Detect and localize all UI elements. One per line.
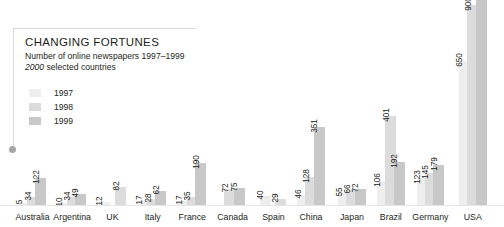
bar-group-argentina: 103449Argentina — [58, 0, 86, 227]
bar-group-bars: 6509001 — [459, 0, 487, 205]
bar-group-bars: 556672 — [338, 0, 366, 205]
category-label-china: China — [299, 212, 322, 222]
bar-australia-1999[interactable]: 122 — [35, 178, 46, 205]
bar-group-france: 1735190France — [178, 0, 206, 227]
bar-group-bars: 1735190 — [178, 0, 206, 205]
bar-value-label: 190 — [192, 155, 201, 169]
bar-uk-1999[interactable]: 82 — [115, 187, 126, 205]
bar-canada-1999[interactable]: 75 — [234, 188, 245, 205]
category-label-spain: Spain — [262, 212, 285, 222]
bar-value-label: 650 — [455, 53, 464, 67]
bar-value-label: 49 — [71, 189, 80, 198]
bar-value-label: 72 — [221, 183, 230, 192]
bar-group-bars: 7275 — [219, 0, 247, 205]
category-label-usa: USA — [464, 212, 482, 222]
bar-value-label: 62 — [152, 186, 161, 195]
bar-value-label: 5 — [15, 200, 24, 205]
bar-value-label: 192 — [390, 155, 399, 169]
category-axis-baseline — [0, 205, 504, 206]
bar-argentina-1999[interactable]: 49 — [75, 194, 86, 205]
bar-usa-1999[interactable]: 1 — [476, 0, 487, 205]
category-label-australia: Australia — [15, 212, 49, 222]
bar-china-1999[interactable]: 351 — [314, 127, 325, 205]
bar-value-label: 106 — [373, 174, 382, 188]
bar-italy-1999[interactable]: 62 — [155, 191, 166, 205]
bar-value-label: 29 — [271, 193, 280, 202]
bar-value-label: 28 — [144, 193, 153, 202]
bar-group-china: 46128351China — [297, 0, 325, 227]
bar-group-bars: 123145179 — [417, 0, 445, 205]
bar-group-australia: 534122Australia — [19, 0, 47, 227]
bar-value-label: 179 — [430, 157, 439, 171]
bar-spain-1997[interactable]: 40 — [260, 196, 271, 205]
bar-value-label: 145 — [421, 165, 430, 179]
bar-value-label: 35 — [183, 192, 192, 201]
bar-germany-1999[interactable]: 179 — [433, 165, 444, 205]
category-label-argentina: Argentina — [53, 212, 91, 222]
bar-group-canada: 7275Canada — [219, 0, 247, 227]
bar-group-bars: 103449 — [58, 0, 86, 205]
bar-value-label: 128 — [302, 169, 311, 183]
bar-japan-1999[interactable]: 72 — [355, 189, 366, 205]
bar-group-brazil: 106401192Brazil — [377, 0, 405, 227]
bar-value-label: 900 — [464, 0, 473, 11]
bar-group-bars: 106401192 — [377, 0, 405, 205]
category-label-japan: Japan — [340, 212, 364, 222]
bar-group-bars: 534122 — [19, 0, 47, 205]
bar-value-label: 72 — [351, 183, 360, 192]
category-label-canada: Canada — [217, 212, 248, 222]
category-label-germany: Germany — [412, 212, 448, 222]
bar-value-label: 401 — [382, 108, 391, 122]
plot-area: 534122Australia103449Argentina1282UK1728… — [0, 0, 504, 227]
bar-group-uk: 1282UK — [99, 0, 127, 227]
bar-group-germany: 123145179Germany — [417, 0, 445, 227]
bar-group-bars: 4029 — [260, 0, 288, 205]
bar-value-label: 46 — [294, 189, 303, 198]
bar-group-bars: 1282 — [99, 0, 127, 205]
bar-group-bars: 172862 — [139, 0, 167, 205]
bar-value-label: 75 — [230, 183, 239, 192]
bar-value-label: 40 — [256, 191, 265, 200]
category-label-france: France — [179, 212, 206, 222]
bar-group-italy: 172862Italy — [139, 0, 167, 227]
category-label-brazil: Brazil — [380, 212, 402, 222]
category-label-italy: Italy — [145, 212, 161, 222]
bar-group-japan: 556672Japan — [338, 0, 366, 227]
category-label-uk: UK — [106, 212, 118, 222]
bar-value-label: 34 — [24, 192, 33, 201]
bar-group-bars: 46128351 — [297, 0, 325, 205]
bar-value-label: 351 — [310, 119, 319, 133]
bar-value-label: 122 — [32, 170, 41, 184]
bar-brazil-1999[interactable]: 192 — [394, 162, 405, 205]
bar-france-1999[interactable]: 190 — [195, 163, 206, 205]
bar-group-spain: 4029Spain — [260, 0, 288, 227]
chart-canvas: CHANGING FORTUNES Number of online newsp… — [0, 0, 504, 227]
bar-value-label: 82 — [112, 181, 121, 190]
bar-group-usa: 6509001USA — [459, 0, 487, 227]
bar-value-label: 17 — [135, 196, 144, 205]
